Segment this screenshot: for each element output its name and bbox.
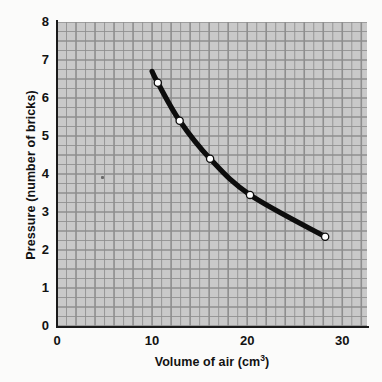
- scan-artifact-speck: [101, 176, 104, 179]
- x-tick-label: 0: [42, 334, 72, 347]
- x-axis-title-main: Volume of air (cm: [155, 355, 261, 369]
- data-point-marker: [322, 233, 329, 240]
- x-tick-label: 20: [232, 334, 262, 347]
- y-axis-title: Pressure (number of bricks): [24, 23, 38, 327]
- x-axis-title-tail: ): [265, 355, 269, 369]
- data-point-marker: [207, 155, 214, 162]
- data-point-marker: [176, 117, 183, 124]
- y-axis-line: [56, 20, 58, 328]
- data-series-curve: [57, 22, 367, 326]
- x-axis-line: [56, 326, 369, 328]
- chart-figure: 012345678 0102030 Volume of air (cm3) Pr…: [0, 0, 382, 382]
- x-tick-label: 30: [327, 334, 357, 347]
- plot-area: [57, 22, 367, 326]
- data-point-marker: [154, 79, 161, 86]
- series-line: [152, 71, 325, 236]
- x-axis-title: Volume of air (cm3): [57, 355, 367, 369]
- x-tick-label: 10: [137, 334, 167, 347]
- data-point-marker: [246, 191, 253, 198]
